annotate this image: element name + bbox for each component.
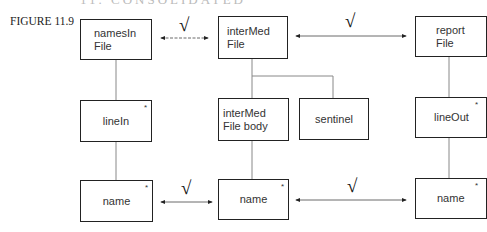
box-name-mid: name * xyxy=(218,179,289,220)
box-label: name xyxy=(416,192,465,205)
check-mark-bottom-right: √ xyxy=(347,175,357,197)
box-name-left: name * xyxy=(80,180,153,222)
box-lineIn: lineIn * xyxy=(80,100,152,142)
box-label: lineIn xyxy=(103,115,129,128)
check-mark-bottom-left: √ xyxy=(181,177,191,199)
box-label: lineOut xyxy=(416,111,469,124)
box-label: sentinel xyxy=(315,113,353,126)
box-interMed-file-body: interMed File body xyxy=(218,98,289,141)
box-sentinel: sentinel xyxy=(299,98,369,140)
iteration-marker: * xyxy=(145,183,148,192)
box-lineOut: lineOut * xyxy=(415,97,487,138)
box-label: report File xyxy=(416,24,465,50)
box-name-right: name * xyxy=(415,178,487,219)
iteration-marker: * xyxy=(475,181,478,190)
box-label: interMed File xyxy=(219,25,270,51)
iteration-marker: * xyxy=(475,100,478,109)
check-mark-top-right: √ xyxy=(345,10,355,32)
box-label: name xyxy=(103,195,131,208)
box-label: name xyxy=(240,193,268,206)
box-interMed-file: interMed File xyxy=(218,16,288,59)
box-namesIn-file: namesIn File xyxy=(80,19,152,60)
box-label: interMed File body xyxy=(219,107,268,133)
check-mark-top-left: √ xyxy=(179,14,189,36)
iteration-marker: * xyxy=(281,182,284,191)
iteration-marker: * xyxy=(144,103,147,112)
box-report-file: report File xyxy=(415,16,487,57)
box-label: namesIn File xyxy=(81,27,136,53)
